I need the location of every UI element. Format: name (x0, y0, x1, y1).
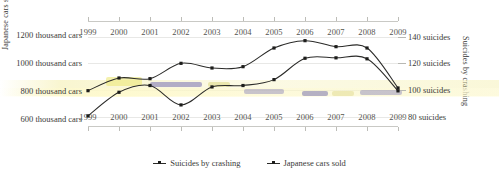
x-axis-tick (305, 17, 306, 21)
data-point-marker (303, 57, 306, 60)
legend-marker-icon (267, 160, 280, 167)
y-axis-right-label: 100 suicides (408, 85, 450, 95)
x-axis-tick (243, 17, 244, 21)
x-axis-tick (274, 17, 275, 21)
data-point-marker (272, 78, 275, 81)
x-axis-tick (150, 17, 151, 21)
y-axis-left-label: 600 thousand cars (21, 114, 82, 124)
y-axis-right-label: 120 suicides (408, 58, 450, 68)
data-point-marker (210, 85, 213, 88)
y-axis-left-label: 800 thousand cars (21, 86, 82, 96)
x-axis-tick (243, 127, 244, 131)
data-point-marker (148, 84, 151, 87)
x-axis-tick (88, 127, 89, 131)
x-axis-tick (181, 127, 182, 131)
legend-label: Japanese cars sold (284, 158, 346, 168)
x-axis-tick (336, 17, 337, 21)
data-point-marker (210, 66, 213, 69)
data-point-marker (365, 57, 368, 60)
legend-label: Suicides by crashing (170, 158, 240, 168)
data-point-marker (334, 56, 337, 59)
x-axis-tick (305, 127, 306, 131)
chart-legend: Suicides by crashingJapanese cars sold (0, 158, 499, 168)
data-point-marker (334, 45, 337, 48)
x-axis-tick (150, 127, 151, 131)
y-axis-left-title: Japanese cars sold (1, 0, 10, 50)
y-axis-left-label: 1200 thousand cars (16, 30, 82, 40)
data-point-marker (117, 91, 120, 94)
x-axis-tick (398, 17, 399, 21)
x-axis-tick (398, 127, 399, 131)
data-point-marker (241, 84, 244, 87)
data-point-marker (179, 103, 182, 106)
data-point-marker (86, 89, 89, 92)
y-axis-right-title: Suicides by crashing (461, 36, 470, 106)
x-axis-tick (181, 17, 182, 21)
x-axis-tick (336, 127, 337, 131)
data-point-marker (86, 114, 89, 117)
y-axis-right-label: 80 suicides (408, 112, 446, 122)
data-point-marker (396, 89, 399, 92)
data-point-marker (117, 76, 120, 79)
chart-container: Japanese cars sold Suicides by crashing … (0, 0, 499, 170)
x-axis-tick (119, 127, 120, 131)
data-point-marker (365, 46, 368, 49)
data-point-marker (272, 46, 275, 49)
y-axis-right-label: 140 suicides (408, 32, 450, 42)
y-axis-right-tick (398, 63, 406, 64)
y-axis-left-label: 1000 thousand cars (16, 58, 82, 68)
x-axis-tick (367, 127, 368, 131)
legend-item[interactable]: Japanese cars sold (267, 158, 346, 168)
x-axis-tick (367, 17, 368, 21)
series-layer (88, 22, 398, 126)
legend-item[interactable]: Suicides by crashing (153, 158, 240, 168)
y-axis-right-tick (398, 117, 406, 118)
x-axis-tick (119, 17, 120, 21)
x-axis-tick (88, 17, 89, 21)
data-point-marker (148, 77, 151, 80)
x-axis-tick (212, 127, 213, 131)
plot-area: 1999200020012002200320042005200620072008… (88, 22, 398, 126)
data-point-marker (241, 65, 244, 68)
x-axis-tick (212, 17, 213, 21)
legend-marker-icon (153, 160, 166, 167)
x-axis-tick (274, 127, 275, 131)
data-point-marker (179, 62, 182, 65)
data-point-marker (303, 39, 306, 42)
y-axis-right-tick (398, 37, 406, 38)
